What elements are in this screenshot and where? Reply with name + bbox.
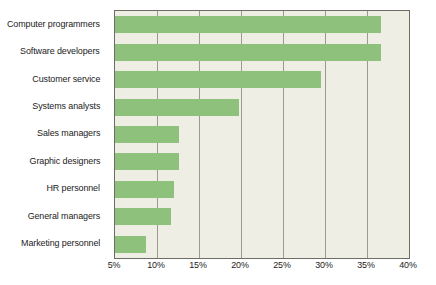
- value-tick-label: 40%: [399, 259, 417, 270]
- category-label-cell: Graphic designers: [0, 147, 106, 174]
- category-label-cell: Systems analysts: [0, 92, 106, 119]
- bar: [115, 153, 179, 170]
- bar-row: [115, 203, 409, 230]
- bar-row: [115, 231, 409, 258]
- category-label: General managers: [28, 211, 100, 221]
- category-axis-labels: Computer programmersSoftware developersC…: [0, 10, 106, 257]
- value-tick-label: 20%: [231, 259, 249, 270]
- value-tick-label: 25%: [273, 259, 291, 270]
- category-label: Systems analysts: [32, 101, 100, 111]
- bar-row: [115, 148, 409, 175]
- value-tick-label: 15%: [189, 259, 207, 270]
- category-label: Computer programmers: [7, 19, 100, 29]
- bar: [115, 71, 321, 88]
- bar: [115, 16, 381, 33]
- bar-row: [115, 176, 409, 203]
- bar: [115, 44, 381, 61]
- category-label-cell: Customer service: [0, 65, 106, 92]
- value-tick-label: 30%: [315, 259, 333, 270]
- bar-row: [115, 66, 409, 93]
- category-label-cell: Sales managers: [0, 120, 106, 147]
- category-label-cell: Marketing personnel: [0, 230, 106, 257]
- bar-row: [115, 38, 409, 65]
- bar-row: [115, 11, 409, 38]
- category-label-cell: General managers: [0, 202, 106, 229]
- category-label-cell: HR personnel: [0, 175, 106, 202]
- value-tick-label: 5%: [108, 259, 121, 270]
- bar: [115, 99, 239, 116]
- bar: [115, 126, 179, 143]
- category-label: Graphic designers: [29, 156, 100, 166]
- category-label-cell: Computer programmers: [0, 10, 106, 37]
- bar-row: [115, 121, 409, 148]
- bar: [115, 236, 146, 253]
- category-label: HR personnel: [47, 183, 100, 193]
- category-label: Marketing personnel: [21, 238, 100, 248]
- value-axis-labels: 5%10%15%20%25%30%35%40%: [114, 259, 408, 279]
- bar-row: [115, 93, 409, 120]
- plot-area: [114, 10, 410, 259]
- value-tick-label: 10%: [147, 259, 165, 270]
- bar: [115, 181, 174, 198]
- category-label: Customer service: [32, 74, 100, 84]
- bars-layer: [115, 11, 409, 258]
- category-label: Software developers: [20, 46, 100, 56]
- value-tick-label: 35%: [357, 259, 375, 270]
- category-label: Sales managers: [37, 128, 100, 138]
- bar-chart: Computer programmersSoftware developersC…: [0, 0, 436, 285]
- bar: [115, 208, 171, 225]
- category-label-cell: Software developers: [0, 37, 106, 64]
